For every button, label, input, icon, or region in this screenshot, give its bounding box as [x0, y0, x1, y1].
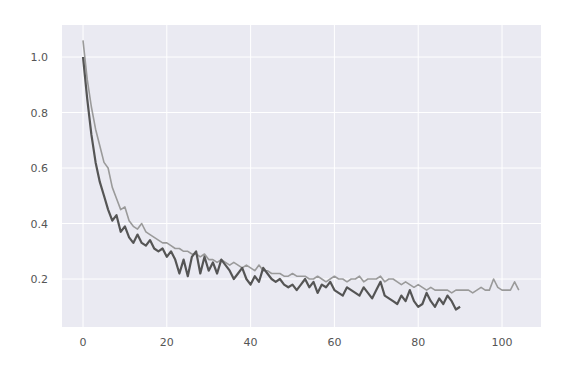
x-tick-label: 0: [80, 336, 87, 349]
plot-background: [62, 25, 541, 327]
x-axis-ticks: 020406080100: [80, 336, 513, 349]
line-chart: 020406080100 0.20.40.60.81.0: [0, 0, 563, 366]
y-tick-label: 0.2: [31, 273, 49, 286]
y-axis-ticks: 0.20.40.60.81.0: [31, 51, 49, 286]
x-tick-label: 40: [244, 336, 258, 349]
x-tick-label: 100: [492, 336, 513, 349]
y-tick-label: 1.0: [31, 51, 49, 64]
y-tick-label: 0.6: [31, 162, 49, 175]
x-tick-label: 20: [160, 336, 174, 349]
y-tick-label: 0.4: [31, 218, 49, 231]
y-tick-label: 0.8: [31, 107, 49, 120]
x-tick-label: 80: [411, 336, 425, 349]
x-tick-label: 60: [327, 336, 341, 349]
